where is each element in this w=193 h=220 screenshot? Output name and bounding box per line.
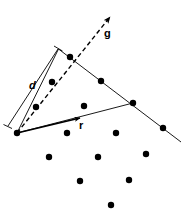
cone-edge-upper bbox=[17, 49, 59, 133]
label-r: r bbox=[79, 120, 83, 131]
lattice-point bbox=[108, 202, 114, 208]
lattice-point bbox=[49, 79, 55, 85]
lattice-vector-diagram bbox=[0, 0, 193, 220]
lattice-point bbox=[67, 54, 73, 60]
lattice-point bbox=[64, 130, 70, 136]
lattice-point bbox=[113, 130, 119, 136]
lattice-point bbox=[130, 100, 136, 106]
vector-arrow-g bbox=[17, 17, 110, 133]
lattice-point bbox=[46, 154, 52, 160]
lattice-point bbox=[143, 151, 149, 157]
lattice-origin-point bbox=[14, 130, 20, 136]
lattice-dot-group bbox=[14, 54, 166, 208]
lattice-point bbox=[81, 103, 87, 109]
lattice-point bbox=[126, 177, 132, 183]
figure-container: d g r bbox=[0, 0, 193, 220]
lattice-point bbox=[98, 78, 104, 84]
lattice-point bbox=[95, 154, 101, 160]
label-d: d bbox=[29, 80, 36, 91]
lattice-point bbox=[77, 178, 83, 184]
dimension-tick-lower bbox=[4, 125, 13, 129]
label-g: g bbox=[104, 28, 111, 39]
lattice-point bbox=[33, 104, 39, 110]
lattice-point bbox=[160, 125, 166, 131]
